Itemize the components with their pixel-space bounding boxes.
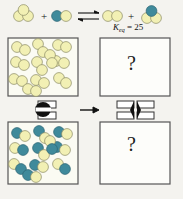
keq-value: 25 xyxy=(134,22,143,32)
bottom-right-question-mark: ? xyxy=(127,133,136,156)
equation-plus-left: + xyxy=(41,10,47,22)
top-right-question-mark: ? xyxy=(127,52,136,75)
equilibrium-figure: + + xyxy=(0,0,183,199)
equation-plus-right: + xyxy=(128,10,134,22)
keq-label: Keq = 25 xyxy=(113,22,143,33)
